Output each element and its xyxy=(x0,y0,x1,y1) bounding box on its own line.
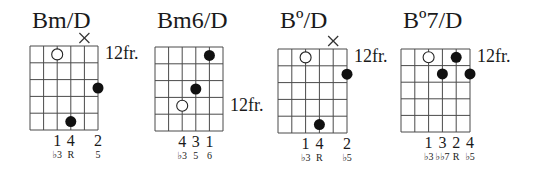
finger-number: 2 xyxy=(449,135,463,151)
finger-number: 1 xyxy=(422,135,436,151)
finger-dot-icon xyxy=(465,68,476,79)
finger-dot-icon xyxy=(451,52,462,63)
chord-title: Bº7/D xyxy=(403,6,462,34)
open-note-circle-icon xyxy=(423,52,434,63)
finger-dot-icon xyxy=(437,68,448,79)
chord-4: Bº7/D12fr.1324♭3♭♭7R♭5 xyxy=(0,0,539,173)
fretboard-grid xyxy=(401,49,470,132)
finger-number: 4 xyxy=(463,135,477,151)
finger-number: 3 xyxy=(435,135,449,151)
interval-degree-label: ♭5 xyxy=(460,152,480,162)
fret-position-label: 12fr. xyxy=(477,46,511,66)
